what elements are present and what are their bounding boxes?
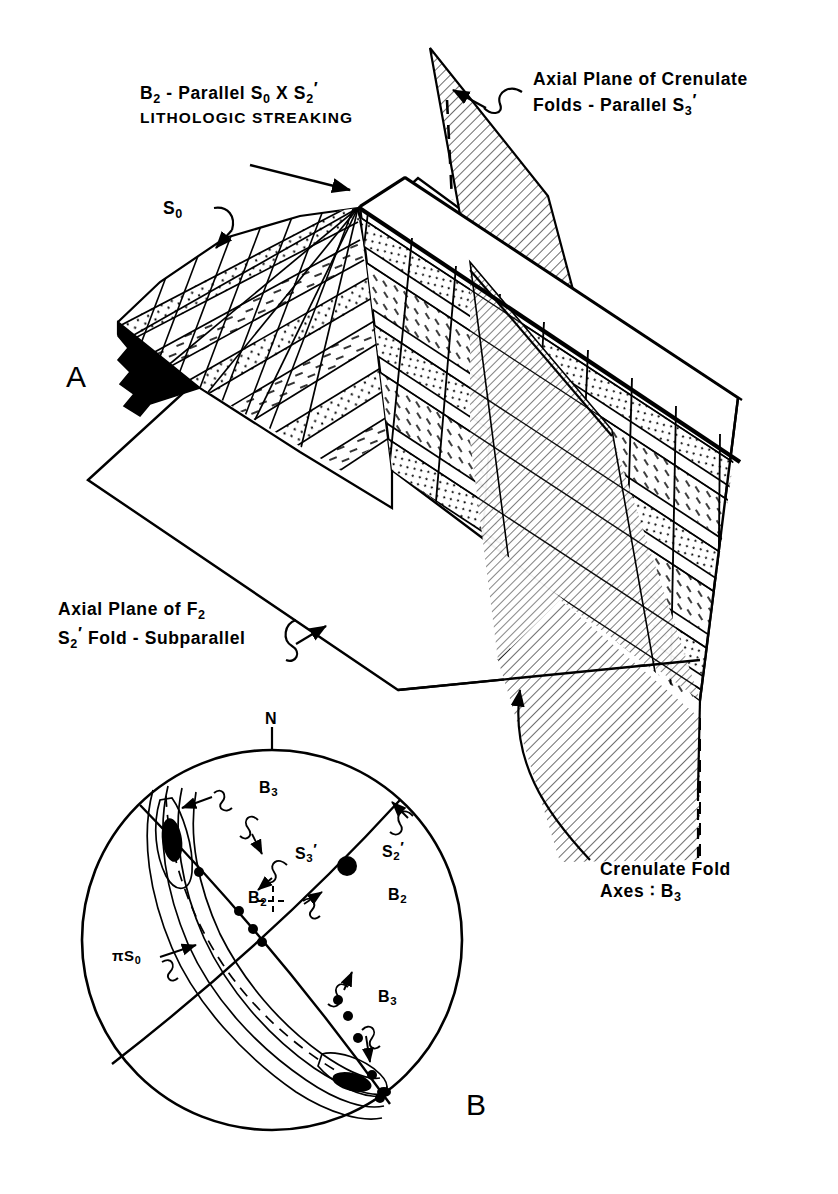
cfa-line2: Axes ∶ B3 <box>600 880 731 905</box>
stereonet-label-s2-prime: S2′ <box>382 837 405 864</box>
label-lithologic-streaking: B2 - Parallel S0 X S2′ LITHOLOGIC STREAK… <box>140 78 353 128</box>
panel-label-b: B <box>466 1086 487 1124</box>
stereonet-north-label: N <box>265 709 277 729</box>
stereonet-label-b2-right: B2 <box>388 885 407 907</box>
apc-line2: Folds - Parallel S3′ <box>533 90 748 119</box>
panel-label-a: A <box>66 358 87 396</box>
apc-line1: Axial Plane of Crenulate <box>533 68 748 90</box>
apf2-line2: S2′ Fold - Subparallel <box>58 623 246 652</box>
label-s0: S0 <box>163 197 183 222</box>
apf2-line1: Axial Plane of F2 <box>58 598 246 623</box>
label-axial-plane-f2: Axial Plane of F2 S2′ Fold - Subparallel <box>58 598 246 652</box>
leader-streaking <box>250 165 350 190</box>
stereonet-label-s3-prime: S3′ <box>295 839 318 866</box>
label-lithologic-streaking-line2: LITHOLOGIC STREAKING <box>140 108 353 128</box>
data-point-b2 <box>337 856 357 876</box>
stereonet-label-b3-lower: B3 <box>378 987 397 1009</box>
cfa-line1: Crenulate Fold <box>600 858 731 880</box>
stereonet-label-b3-upper: B3 <box>259 778 278 800</box>
stereonet-label-pi-s0: πS0 <box>112 946 141 968</box>
label-crenulate-fold-axes: Crenulate Fold Axes ∶ B3 <box>600 858 731 905</box>
stereonet-label-b2-left: B2 <box>248 888 267 910</box>
label-axial-plane-crenulate: Axial Plane of Crenulate Folds - Paralle… <box>533 68 748 119</box>
geology-figure <box>0 0 838 1194</box>
